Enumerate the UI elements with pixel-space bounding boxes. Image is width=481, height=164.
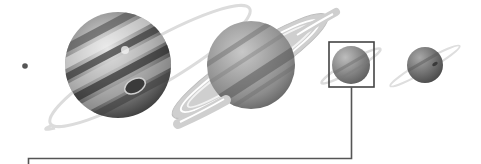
planets-diagram xyxy=(0,0,481,164)
moon-dot xyxy=(22,63,28,69)
